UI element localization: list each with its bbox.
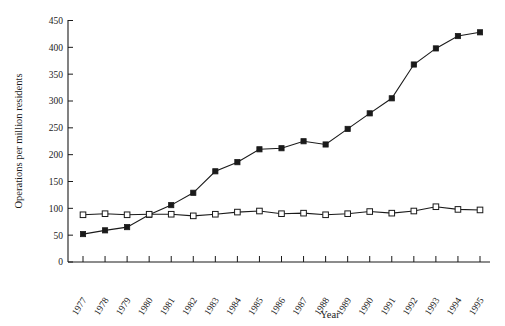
x-tick-label: 1979 [114, 295, 133, 317]
data-point-filled-square [389, 96, 394, 101]
data-point-open-square [477, 207, 483, 213]
series-filled-square-series [80, 30, 482, 237]
y-axis-title: Operations per million residents [13, 73, 24, 208]
x-tick-label: 1995 [467, 295, 486, 317]
data-point-filled-square [411, 62, 416, 67]
y-tick-label: 300 [49, 96, 64, 106]
data-point-open-square [190, 213, 196, 219]
y-tick-label: 50 [54, 231, 64, 241]
data-point-filled-square [345, 126, 350, 131]
data-point-open-square [433, 204, 439, 210]
data-point-filled-square [102, 228, 107, 233]
data-point-open-square [257, 208, 263, 214]
x-tick-label: 1994 [445, 295, 464, 317]
x-axis: 1977197819791980198119821983198419851986… [68, 256, 490, 320]
x-tick-label: 1982 [180, 295, 199, 317]
y-tick-label: 150 [49, 177, 64, 187]
y-tick-label: 400 [49, 43, 64, 53]
x-axis-ticks [83, 256, 480, 262]
data-point-open-square [367, 209, 373, 215]
data-point-filled-square [477, 30, 482, 35]
x-tick-label: 1981 [158, 295, 177, 317]
data-point-filled-square [125, 225, 130, 230]
x-axis-title: Year [320, 309, 340, 320]
data-point-filled-square [80, 231, 85, 236]
data-point-filled-square [279, 146, 284, 151]
data-point-open-square [345, 211, 351, 217]
data-point-filled-square [367, 111, 372, 116]
y-axis-ticks [68, 21, 73, 263]
x-tick-label: 1991 [379, 295, 398, 317]
x-tick-label: 1990 [357, 295, 376, 317]
data-point-filled-square [191, 190, 196, 195]
y-tick-label: 0 [58, 257, 63, 267]
data-point-filled-square [257, 147, 262, 152]
data-point-open-square [389, 210, 395, 216]
y-tick-label: 450 [49, 16, 64, 26]
series-polyline [83, 32, 480, 234]
data-point-open-square [102, 211, 108, 217]
y-axis: 050100150200250300350400450 Operations p… [13, 16, 73, 268]
line-chart-canvas: 050100150200250300350400450 Operations p… [0, 0, 505, 326]
data-point-filled-square [455, 33, 460, 38]
y-tick-label: 350 [49, 70, 64, 80]
x-axis-tick-labels: 1977197819791980198119821983198419851986… [70, 295, 486, 317]
data-point-filled-square [235, 160, 240, 165]
x-tick-label: 1985 [246, 295, 265, 317]
y-tick-label: 100 [49, 204, 64, 214]
x-tick-label: 1986 [268, 295, 287, 317]
data-point-filled-square [213, 169, 218, 174]
data-point-open-square [124, 212, 130, 218]
data-point-open-square [168, 211, 174, 217]
data-point-open-square [411, 208, 417, 214]
y-axis-tick-labels: 050100150200250300350400450 [49, 16, 64, 268]
x-tick-label: 1984 [224, 295, 243, 317]
y-tick-label: 250 [49, 123, 64, 133]
data-point-open-square [146, 211, 152, 217]
data-point-filled-square [301, 139, 306, 144]
x-tick-label: 1980 [136, 295, 155, 317]
x-tick-label: 1977 [70, 295, 89, 317]
data-point-open-square [455, 207, 461, 213]
x-tick-label: 1992 [401, 295, 420, 317]
x-tick-label: 1978 [92, 295, 111, 317]
data-point-open-square [279, 211, 285, 217]
data-point-open-square [235, 209, 241, 215]
data-point-open-square [213, 211, 219, 217]
y-tick-label: 200 [49, 150, 64, 160]
series-open-square-series [80, 204, 483, 219]
data-series-layer [80, 30, 483, 237]
x-tick-label: 1983 [202, 295, 221, 317]
data-point-open-square [80, 212, 86, 218]
x-tick-label: 1993 [423, 295, 442, 317]
data-point-open-square [323, 212, 329, 218]
data-point-filled-square [433, 46, 438, 51]
chart-figure: 050100150200250300350400450 Operations p… [0, 0, 505, 326]
x-tick-label: 1987 [291, 295, 310, 317]
data-point-open-square [301, 210, 307, 216]
data-point-filled-square [169, 203, 174, 208]
data-point-filled-square [323, 142, 328, 147]
